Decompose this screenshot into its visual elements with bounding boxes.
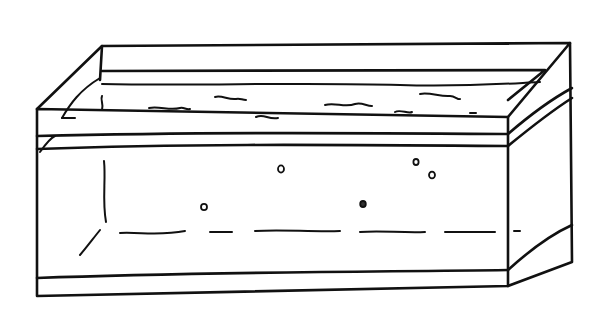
bubble xyxy=(278,165,284,172)
tank-top-rim xyxy=(37,43,570,118)
aquarium-tank-illustration xyxy=(0,0,607,329)
aquarium-drawing xyxy=(0,0,607,329)
air-bubbles xyxy=(201,159,435,210)
bubble xyxy=(360,201,366,207)
bubble xyxy=(429,172,435,179)
tank-front-face xyxy=(37,109,508,296)
bubble xyxy=(201,204,207,210)
tank-interior-lines xyxy=(80,161,520,255)
bubble xyxy=(413,159,418,165)
